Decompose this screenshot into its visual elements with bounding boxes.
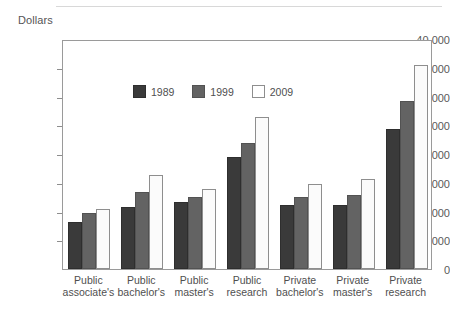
- bar: [149, 175, 163, 269]
- x-axis-category-label: Publicassociate's: [62, 274, 115, 298]
- bar: [68, 222, 82, 269]
- x-axis-category-label: Publicmaster's: [168, 274, 221, 298]
- bar-group: [63, 41, 116, 269]
- bar: [121, 207, 135, 269]
- x-axis-category-label: Privateresearch: [379, 274, 432, 298]
- x-axis-category-label: Privatemaster's: [326, 274, 379, 298]
- bar-group: [380, 41, 433, 269]
- bar: [386, 129, 400, 269]
- bar: [188, 197, 202, 269]
- bar: [96, 209, 110, 269]
- bar: [135, 192, 149, 269]
- x-axis-category-label: Publicresearch: [221, 274, 274, 298]
- bars-layer: [63, 41, 431, 269]
- bar: [227, 157, 241, 269]
- bar-group-bars: [327, 41, 380, 269]
- bar-group: [327, 41, 380, 269]
- bar: [174, 202, 188, 269]
- bar: [202, 189, 216, 270]
- bar-group-bars: [222, 41, 275, 269]
- top-divider-rule: [56, 6, 442, 7]
- bar-group: [222, 41, 275, 269]
- bar-group-bars: [274, 41, 327, 269]
- bar-group: [116, 41, 169, 269]
- bar-group: [274, 41, 327, 269]
- bar-group-bars: [169, 41, 222, 269]
- bar: [308, 184, 322, 269]
- bar: [414, 65, 428, 269]
- bar: [241, 143, 255, 270]
- x-axis-category-label: Privatebachelor's: [273, 274, 326, 298]
- x-axis-category-label: Publicbachelor's: [115, 274, 168, 298]
- bar: [280, 205, 294, 269]
- bar: [82, 213, 96, 269]
- bar: [361, 179, 375, 269]
- bar-group-bars: [63, 41, 116, 269]
- bar: [347, 195, 361, 269]
- bar-group-bars: [116, 41, 169, 269]
- bar-group: [169, 41, 222, 269]
- bar: [255, 117, 269, 269]
- bar: [294, 197, 308, 269]
- y-axis-title: Dollars: [18, 14, 53, 26]
- bar-group-bars: [380, 41, 433, 269]
- plot-area: 198919992009: [62, 40, 432, 270]
- bar: [333, 205, 347, 269]
- bar: [400, 101, 414, 269]
